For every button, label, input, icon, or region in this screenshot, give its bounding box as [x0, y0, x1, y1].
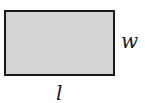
- width-label: w: [121, 31, 138, 51]
- length-label: l: [56, 83, 62, 103]
- rectangle-shape: [4, 10, 115, 76]
